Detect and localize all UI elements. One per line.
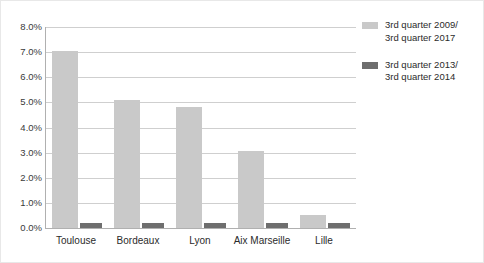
x-axis-tick-label: Bordeaux (117, 235, 160, 247)
bar (204, 223, 226, 228)
legend-swatch-icon (362, 62, 378, 69)
bar (114, 100, 140, 228)
bar (238, 151, 264, 228)
y-axis-tick-label: 6.0% (2, 73, 42, 83)
bar-group (114, 27, 164, 228)
bar-chart: 0.0%1.0%2.0%3.0%4.0%5.0%6.0%7.0%8.0% Tou… (0, 0, 484, 263)
y-axis-tick-label: 7.0% (2, 47, 42, 57)
y-axis-tick-label: 0.0% (2, 223, 42, 233)
y-axis-tick-label: 2.0% (2, 173, 42, 183)
bar-group (176, 27, 226, 228)
y-axis-tick-label: 4.0% (2, 123, 42, 133)
bar (328, 223, 350, 228)
chart-legend: 3rd quarter 2009/ 3rd quarter 20173rd qu… (362, 19, 482, 98)
bar (176, 107, 202, 228)
bar (142, 223, 164, 228)
bar-group (300, 27, 350, 228)
legend-entry: 3rd quarter 2013/ 3rd quarter 2014 (362, 59, 482, 85)
x-axis: ToulouseBordeauxLyonAix MarseilleLille (45, 235, 356, 255)
bar (80, 223, 102, 228)
x-axis-tick-label: Aix Marseille (234, 235, 291, 247)
legend-label: 3rd quarter 2009/ 3rd quarter 2017 (385, 19, 458, 45)
plot-area (45, 27, 356, 229)
legend-entry: 3rd quarter 2009/ 3rd quarter 2017 (362, 19, 482, 45)
x-axis-tick-label: Lyon (189, 235, 210, 247)
bar (266, 223, 288, 228)
bar (52, 51, 78, 228)
bar-group (52, 27, 102, 228)
legend-label: 3rd quarter 2013/ 3rd quarter 2014 (385, 59, 458, 85)
x-axis-tick-label: Lille (315, 235, 333, 247)
y-axis-tick-label: 5.0% (2, 98, 42, 108)
bar (300, 215, 326, 228)
y-axis-tick-label: 1.0% (2, 198, 42, 208)
y-axis: 0.0%1.0%2.0%3.0%4.0%5.0%6.0%7.0%8.0% (1, 27, 42, 229)
y-axis-tick-label: 8.0% (2, 22, 42, 32)
x-axis-tick-label: Toulouse (56, 235, 96, 247)
y-axis-tick-label: 3.0% (2, 148, 42, 158)
legend-swatch-icon (362, 22, 378, 29)
bar-group (238, 27, 288, 228)
